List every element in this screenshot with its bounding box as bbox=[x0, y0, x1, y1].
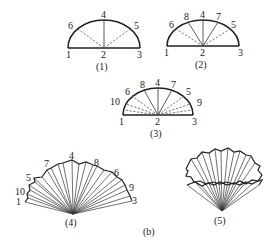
point-label: 6 bbox=[169, 19, 174, 30]
point-label: 8 bbox=[184, 11, 189, 22]
point-label: 4 bbox=[101, 9, 106, 20]
point-label: 5 bbox=[231, 19, 236, 30]
diagram-canvas: 1 2 3 4 6 5 (1) 1 2 3 4 8 7 6 5 (2) bbox=[0, 0, 272, 249]
panel-5: (5) bbox=[186, 148, 262, 227]
point-label: 4 bbox=[155, 77, 160, 88]
point-label: 4 bbox=[200, 9, 205, 20]
point-label: 6 bbox=[114, 167, 119, 178]
point-label: 10 bbox=[15, 186, 25, 197]
group-caption: (b) bbox=[143, 226, 155, 238]
point-label: 7 bbox=[216, 11, 221, 22]
panel-3: 1 2 3 4 8 7 6 5 10 9 (3) bbox=[110, 77, 202, 140]
panel-caption: (1) bbox=[96, 61, 108, 73]
point-label: 1 bbox=[164, 47, 169, 58]
radius-to-7 bbox=[203, 22, 218, 46]
point-label: 1 bbox=[119, 116, 124, 127]
dashed-radius-to-5 bbox=[158, 96, 184, 115]
point-label: 5 bbox=[186, 86, 191, 97]
panel-1: 1 2 3 4 6 5 (1) bbox=[66, 9, 142, 73]
panel-caption: (5) bbox=[214, 215, 226, 227]
dashed-radius-to-6 bbox=[78, 29, 104, 48]
point-label: 7 bbox=[171, 79, 176, 90]
point-label: 6 bbox=[68, 20, 73, 31]
point-label: 2 bbox=[155, 116, 160, 127]
point-label: 8 bbox=[94, 157, 99, 168]
radius-to-8 bbox=[188, 22, 203, 46]
dashed-radius-to-5 bbox=[203, 29, 230, 46]
point-label: 3 bbox=[192, 116, 197, 127]
point-label: 10 bbox=[110, 96, 120, 107]
dashed-radius-to-6 bbox=[132, 96, 158, 115]
panel-4: 1 10 5 7 4 8 6 9 3 (4) bbox=[15, 150, 137, 229]
point-label: 5 bbox=[26, 172, 31, 183]
cone-top-rim bbox=[186, 148, 262, 184]
point-label: 8 bbox=[140, 79, 145, 90]
panel-caption: (3) bbox=[150, 128, 162, 140]
point-label: 7 bbox=[44, 158, 49, 169]
point-label: 3 bbox=[137, 49, 142, 60]
point-label: 2 bbox=[101, 49, 106, 60]
panel-caption: (2) bbox=[195, 59, 207, 71]
panel-caption: (4) bbox=[65, 217, 77, 229]
point-label: 3 bbox=[132, 195, 137, 206]
point-label: 1 bbox=[66, 49, 71, 60]
point-label: 5 bbox=[134, 20, 139, 31]
point-label: 2 bbox=[200, 47, 205, 58]
point-label: 9 bbox=[197, 97, 202, 108]
point-label: 1 bbox=[16, 196, 21, 207]
point-label: 4 bbox=[69, 150, 74, 161]
dashed-radius-to-6 bbox=[176, 29, 203, 46]
point-label: 9 bbox=[129, 182, 134, 193]
point-label: 6 bbox=[125, 86, 130, 97]
dashed-radius-to-5 bbox=[104, 29, 130, 48]
point-label: 3 bbox=[238, 47, 243, 58]
panel-2: 1 2 3 4 8 7 6 5 (2) bbox=[164, 9, 243, 71]
